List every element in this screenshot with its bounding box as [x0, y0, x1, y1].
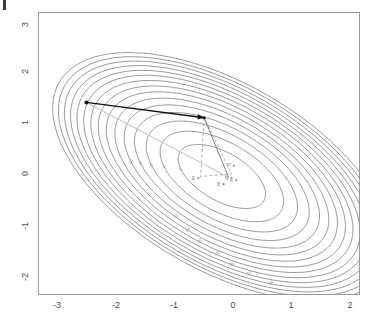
x-tick-label: 0 [223, 300, 243, 310]
y-tick-label: 3 [20, 22, 30, 36]
contour-line [106, 92, 337, 261]
search-step-arrow [86, 102, 204, 117]
contour-line [135, 113, 310, 241]
newton-step-path [204, 118, 229, 178]
annotation-point-label: E [192, 175, 196, 181]
contour-plot-figure: 24681012141618202224EPNBA -3 -2 -1 0 1 2… [0, 0, 383, 328]
annotation-point [235, 179, 237, 181]
contour-line [146, 121, 297, 232]
arrow-tail-point [84, 100, 88, 104]
contour-level-label: 10 [127, 158, 134, 165]
x-tick-label: -1 [164, 300, 184, 310]
y-tick-label: 2 [20, 69, 30, 83]
contour-line [91, 81, 353, 273]
x-tick-label: -2 [106, 300, 126, 310]
y-tick-label: 1 [20, 120, 30, 134]
y-tick-label: -1 [20, 222, 30, 236]
contour-line [64, 61, 359, 292]
plot-frame: 24681012141618202224EPNBA [38, 12, 360, 295]
x-tick-label: 2 [340, 300, 360, 310]
annotation-point-label: A [230, 177, 234, 183]
plot-canvas: 24681012141618202224EPNBA [39, 13, 359, 294]
arrow-tip-point [203, 116, 206, 119]
annotation-point [197, 177, 199, 179]
annotation-point-label: B [217, 181, 221, 187]
contour-line [160, 131, 284, 222]
y-tick-label: -2 [20, 273, 30, 287]
contour-level-label: 4 [162, 164, 167, 170]
contour-level-label: 8 [138, 160, 143, 166]
contour-level-label: 6 [149, 162, 154, 168]
x-tick-label: 1 [281, 300, 301, 310]
y-tick-label: 0 [20, 171, 30, 185]
annotation-point-label: P [227, 162, 231, 168]
annotation-point-label: N [225, 175, 229, 181]
contour-line [58, 57, 359, 294]
contour-level-label: 2 [178, 166, 183, 172]
annotation-point [222, 183, 224, 185]
annotation-point [233, 165, 235, 167]
top-left-tick-mark [3, 0, 6, 10]
contour-line [98, 86, 345, 267]
contour-line [124, 105, 319, 248]
x-tick-label: -3 [47, 300, 67, 310]
